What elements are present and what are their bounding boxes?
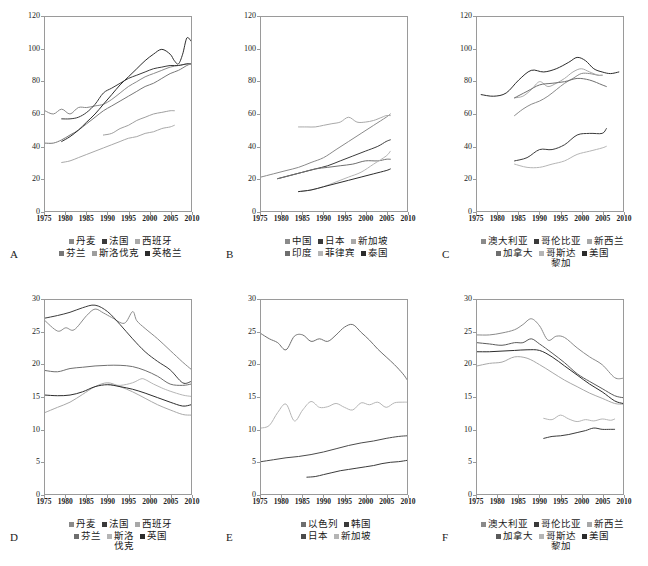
y-tick-mark — [473, 179, 476, 180]
x-tick-label: 2005 — [379, 498, 394, 506]
legend-item[interactable]: 加拿大 — [496, 531, 533, 542]
series-line — [261, 401, 407, 428]
legend-item[interactable]: 芬兰 — [59, 248, 86, 259]
legend-label: 丹麦 — [76, 519, 96, 530]
legend-item[interactable]: 丹麦 — [69, 519, 96, 530]
legend-item[interactable]: 日本 — [318, 236, 345, 247]
x-tick-label: 2005 — [163, 215, 178, 223]
legend-item[interactable]: 哥斯达黎加 — [539, 531, 576, 552]
legend-item[interactable]: 美国 — [582, 248, 609, 259]
y-tick-mark — [257, 179, 260, 180]
panel-f: 0510152025301975198019851990199520002005… — [432, 283, 648, 566]
x-tick-label: 1975 — [253, 215, 268, 223]
x-tick-mark — [65, 495, 66, 498]
y-tick-mark — [473, 147, 476, 148]
legend-item[interactable]: 韩国 — [344, 519, 371, 530]
legend-item[interactable]: 菲律宾 — [318, 248, 355, 259]
y-tick-mark — [257, 147, 260, 148]
x-tick-mark — [345, 212, 346, 215]
plot-area-d: 0510152025301975198019851990199520002005… — [44, 299, 192, 495]
x-tick-label: 1995 — [121, 498, 136, 506]
series-line — [108, 379, 191, 397]
y-tick-label: 10 — [248, 426, 256, 434]
legend-item[interactable]: 芬兰 — [74, 531, 101, 542]
y-tick-label: 40 — [464, 143, 472, 151]
x-tick-label: 1980 — [490, 215, 505, 223]
legend-label: 丹麦 — [76, 236, 96, 247]
y-tick-label: 120 — [28, 12, 40, 20]
legend-item[interactable]: 新加坡 — [334, 531, 371, 542]
series-line — [515, 129, 607, 161]
legend-swatch-icon — [140, 534, 145, 539]
panel-label-d: D — [10, 531, 18, 543]
legend-item[interactable]: 日本 — [301, 531, 328, 542]
y-tick-label: 25 — [464, 328, 472, 336]
legend-item[interactable]: 加拿大 — [496, 248, 533, 259]
legend-swatch-icon — [135, 239, 140, 244]
y-tick-mark — [257, 49, 260, 50]
legend-item[interactable]: 哥伦比亚 — [534, 519, 581, 530]
legend-item[interactable]: 澳大利亚 — [481, 519, 528, 530]
legend-label: 哥伦比亚 — [541, 519, 581, 530]
x-tick-mark — [539, 212, 540, 215]
y-tick-label: 5 — [252, 458, 256, 466]
series-line — [307, 460, 407, 477]
x-tick-label: 2005 — [379, 215, 394, 223]
x-tick-label: 2010 — [617, 215, 632, 223]
y-tick-label: 15 — [464, 393, 472, 401]
legend-label: 芬兰 — [66, 248, 86, 259]
x-tick-mark — [387, 495, 388, 498]
legend-item[interactable]: 新西兰 — [587, 519, 624, 530]
legend-item[interactable]: 泰国 — [361, 248, 388, 259]
x-tick-mark — [561, 495, 562, 498]
x-tick-mark — [408, 495, 409, 498]
legend-item[interactable]: 英格兰 — [145, 248, 182, 259]
x-tick-mark — [603, 212, 604, 215]
legend-item[interactable]: 哥伦比亚 — [534, 236, 581, 247]
legend-item[interactable]: 以色列 — [301, 519, 338, 530]
legend-item[interactable]: 澳大利亚 — [481, 236, 528, 247]
legend-f: 澳大利亚哥伦比亚新西兰加拿大哥斯达黎加美国 — [460, 519, 644, 553]
y-tick-label: 20 — [248, 175, 256, 183]
panel-label-f: F — [442, 531, 448, 543]
legend-label: 泰国 — [368, 248, 388, 259]
legend-item[interactable]: 斯洛伐克 — [92, 248, 139, 259]
x-tick-label: 1990 — [316, 215, 331, 223]
legend-item[interactable]: 哥斯达黎加 — [539, 248, 576, 269]
x-tick-label: 2000 — [358, 498, 373, 506]
x-tick-mark — [476, 495, 477, 498]
legend-swatch-icon — [534, 522, 539, 527]
y-tick-mark — [41, 16, 44, 17]
legend-item[interactable]: 斯洛伐克 — [107, 531, 134, 552]
legend-item[interactable]: 中国 — [285, 236, 312, 247]
legend-d: 丹麦法国西班牙芬兰斯洛伐克英国 — [28, 519, 212, 553]
y-tick-label: 100 — [244, 45, 256, 53]
legend-item[interactable]: 法国 — [102, 236, 129, 247]
x-tick-label: 1980 — [58, 215, 73, 223]
y-tick-mark — [473, 16, 476, 17]
legend-swatch-icon — [582, 251, 587, 256]
x-tick-mark — [497, 495, 498, 498]
legend-item[interactable]: 英国 — [140, 531, 167, 542]
legend-item[interactable]: 美国 — [582, 531, 609, 542]
y-tick-mark — [257, 430, 260, 431]
x-tick-label: 1975 — [37, 498, 52, 506]
legend-item[interactable]: 西班牙 — [135, 519, 172, 530]
legend-item[interactable]: 丹麦 — [69, 236, 96, 247]
x-tick-label: 1985 — [79, 215, 94, 223]
legend-label: 加拿大 — [503, 248, 533, 259]
legend-swatch-icon — [69, 522, 74, 527]
x-tick-label: 1975 — [469, 215, 484, 223]
legend-item[interactable]: 新西兰 — [587, 236, 624, 247]
legend-item[interactable]: 新加坡 — [351, 236, 388, 247]
legend-swatch-icon — [92, 251, 97, 256]
legend-item[interactable]: 法国 — [102, 519, 129, 530]
x-tick-mark — [281, 495, 282, 498]
x-tick-label: 2010 — [401, 215, 416, 223]
legend-item[interactable]: 印度 — [285, 248, 312, 259]
x-tick-mark — [192, 212, 193, 215]
legend-swatch-icon — [318, 251, 323, 256]
series-line — [45, 64, 191, 143]
legend-item[interactable]: 西班牙 — [135, 236, 172, 247]
legend-label: 新加坡 — [341, 531, 371, 542]
